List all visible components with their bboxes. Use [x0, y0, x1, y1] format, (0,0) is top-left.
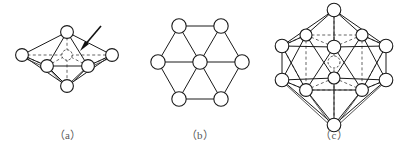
atom-bottom-right-b [214, 92, 228, 106]
caption-c: （c） [265, 129, 403, 142]
atom-right-b [235, 55, 249, 69]
figure-panel-c: （c） [265, 0, 403, 150]
atom-right-a [106, 49, 119, 62]
atoms-b [151, 19, 249, 106]
atom-front-right-a [82, 60, 95, 73]
caption-a: （a） [0, 129, 135, 142]
atom-lower-right-c [379, 73, 393, 87]
atom-left-b [151, 55, 165, 69]
atom-upper-left-c [275, 39, 289, 53]
atom-upper-right-c [379, 39, 393, 53]
interstitial-atom-c [328, 56, 340, 68]
icosahedron-diagram [265, 0, 403, 150]
atom-top-a [61, 26, 74, 39]
atom-bottom-a [61, 80, 74, 93]
atom-front-left-a [41, 60, 54, 73]
atom-left-a [16, 49, 29, 62]
atom-upper-back-right-c [356, 29, 368, 41]
figure-container: （a） [0, 0, 403, 150]
atom-lower-front-c [328, 72, 340, 84]
atom-top-right-b [214, 19, 228, 33]
atom-lower-back-right-c [356, 84, 369, 97]
interstitial-atom-a [62, 50, 72, 60]
octahedron-diagram [0, 0, 135, 150]
atom-top-left-b [172, 19, 186, 33]
atom-center-b [193, 55, 207, 69]
atom-lower-back-left-c [300, 84, 313, 97]
atom-apex-c [327, 3, 341, 17]
atom-bottom-left-b [172, 92, 186, 106]
caption-b: （b） [135, 129, 265, 142]
atom-upper-front-c [327, 40, 341, 54]
hexagon-diagram [135, 0, 265, 150]
figure-panel-a: （a） [0, 0, 135, 150]
figure-panel-b: （b） [135, 0, 265, 150]
atom-lower-left-c [275, 73, 289, 87]
atom-upper-back-left-c [300, 29, 312, 41]
